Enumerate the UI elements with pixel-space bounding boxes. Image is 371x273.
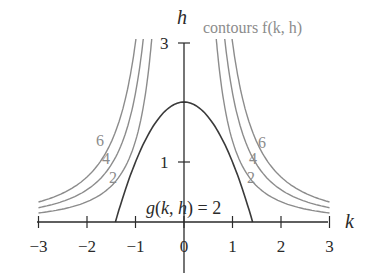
contour-label-6-left: 6 [96, 132, 104, 149]
contours-legend: contours f(k, h) [203, 19, 302, 37]
contour-label-2-right: 2 [247, 169, 255, 186]
contour-curve-2 [39, 39, 152, 213]
k-axis-label: k [345, 210, 355, 232]
k-axis-tick-labels: −3−2−10123 [29, 237, 333, 256]
h-tick-label-1: 1 [160, 153, 169, 172]
k-tick-label: −2 [78, 237, 96, 256]
k-tick-label: −3 [29, 237, 47, 256]
h-axis-label: h [177, 6, 187, 28]
contour-label-4-left: 4 [102, 150, 110, 167]
k-tick-label: 1 [228, 237, 237, 256]
contour-label-2-left: 2 [109, 169, 117, 186]
contour-curve-6 [39, 39, 136, 202]
k-tick-label: −1 [126, 237, 144, 256]
chart: 3 1 h k contours f(k, h) 6 4 2 6 4 2 g(k… [0, 0, 371, 273]
contour-curve-2 [216, 39, 329, 213]
h-tick-label-3: 3 [160, 34, 169, 53]
contour-label-4-right: 4 [249, 150, 257, 167]
contour-label-6-right: 6 [258, 134, 266, 151]
k-tick-label: 0 [180, 237, 189, 256]
constraint-label: g(k, h) = 2 [146, 198, 221, 219]
k-tick-label: 2 [277, 237, 286, 256]
k-tick-label: 3 [325, 237, 334, 256]
